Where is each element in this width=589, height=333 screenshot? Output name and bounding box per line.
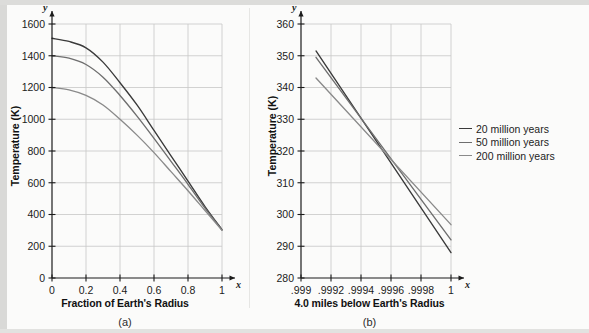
svg-text:.999: .999 bbox=[291, 284, 312, 296]
svg-text:330: 330 bbox=[276, 113, 294, 125]
legend-line-icon bbox=[459, 128, 472, 129]
chart-legend: 20 million years 50 million years 200 mi… bbox=[459, 122, 555, 163]
svg-text:1: 1 bbox=[219, 284, 225, 296]
svg-text:.9992: .9992 bbox=[318, 284, 344, 296]
chart-a-y-axis-label: Temperature (K) bbox=[9, 101, 21, 191]
svg-text:0: 0 bbox=[39, 272, 45, 284]
svg-text:.9998: .9998 bbox=[408, 284, 434, 296]
chart-b-y-axis-label: Temperature (K) bbox=[266, 91, 278, 181]
svg-text:0.2: 0.2 bbox=[79, 284, 94, 296]
svg-text:y: y bbox=[42, 2, 48, 13]
svg-text:1400: 1400 bbox=[22, 50, 46, 62]
svg-text:1: 1 bbox=[448, 284, 454, 296]
legend-label: 50 million years bbox=[476, 136, 549, 148]
svg-text:300: 300 bbox=[276, 208, 294, 220]
svg-text:1600: 1600 bbox=[22, 18, 46, 30]
svg-text:0.8: 0.8 bbox=[181, 284, 196, 296]
svg-text:350: 350 bbox=[276, 50, 294, 62]
chart-a-svg: xy0200400600800100012001400160000.20.40.… bbox=[0, 0, 250, 300]
svg-text:x: x bbox=[235, 279, 241, 290]
svg-text:320: 320 bbox=[276, 145, 294, 157]
legend-item: 50 million years bbox=[459, 136, 555, 150]
svg-text:340: 340 bbox=[276, 81, 294, 93]
chart-b-caption: (b) bbox=[257, 316, 482, 328]
svg-text:0.4: 0.4 bbox=[113, 284, 128, 296]
chart-a-caption: (a) bbox=[10, 316, 240, 328]
legend-item: 20 million years bbox=[459, 122, 555, 136]
svg-text:360: 360 bbox=[276, 18, 294, 30]
svg-text:0.6: 0.6 bbox=[147, 284, 162, 296]
svg-text:800: 800 bbox=[27, 145, 45, 157]
svg-text:0: 0 bbox=[49, 284, 55, 296]
svg-text:.9996: .9996 bbox=[378, 284, 404, 296]
svg-text:310: 310 bbox=[276, 177, 294, 189]
svg-text:x: x bbox=[464, 279, 470, 290]
svg-text:1200: 1200 bbox=[22, 81, 46, 93]
legend-label: 20 million years bbox=[476, 123, 549, 135]
panel-b: xy280290300310320330340350360.999.9992.9… bbox=[249, 0, 589, 333]
legend-line-icon bbox=[459, 155, 472, 156]
svg-text:290: 290 bbox=[276, 240, 294, 252]
svg-text:.9994: .9994 bbox=[348, 284, 374, 296]
svg-text:600: 600 bbox=[27, 177, 45, 189]
svg-text:400: 400 bbox=[27, 208, 45, 220]
legend-item: 200 million years bbox=[459, 149, 555, 163]
chart-b-x-axis-label: 4.0 miles below Earth's Radius bbox=[257, 297, 482, 309]
svg-text:280: 280 bbox=[276, 272, 294, 284]
legend-label: 200 million years bbox=[476, 150, 555, 162]
svg-text:200: 200 bbox=[27, 240, 45, 252]
figure-container: xy0200400600800100012001400160000.20.40.… bbox=[0, 0, 589, 333]
svg-text:y: y bbox=[291, 2, 297, 13]
legend-line-icon bbox=[459, 142, 472, 143]
svg-text:1000: 1000 bbox=[22, 113, 46, 125]
panel-a: xy0200400600800100012001400160000.20.40.… bbox=[0, 0, 250, 333]
chart-a-x-axis-label: Fraction of Earth's Radius bbox=[10, 297, 240, 309]
